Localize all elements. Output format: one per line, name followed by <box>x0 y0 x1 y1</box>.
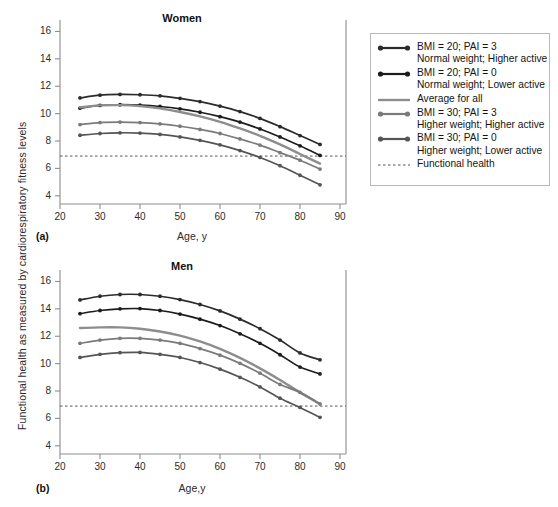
series-marker <box>238 317 242 321</box>
series-marker <box>258 156 262 160</box>
series-marker <box>218 309 222 313</box>
series-marker <box>218 324 222 328</box>
series-marker <box>78 341 82 345</box>
y-tick-label: 16 <box>35 275 51 286</box>
legend-swatch-icon <box>377 41 411 54</box>
series-marker <box>118 93 122 97</box>
series-marker <box>218 367 222 371</box>
panel-men-letter: (b) <box>36 482 49 494</box>
legend-sublabel: Normal weight; Lower active <box>417 79 545 91</box>
y-tick-label: 10 <box>35 358 51 369</box>
x-tick-label: 40 <box>128 461 152 472</box>
series-marker <box>178 107 182 111</box>
series-marker <box>238 149 242 153</box>
series-marker <box>158 94 162 98</box>
legend-sublabel: Higher weight; Higher active <box>417 119 544 131</box>
legend-swatch-icon <box>377 158 411 171</box>
series-marker <box>218 104 222 108</box>
panel-women-title: Women <box>32 12 332 24</box>
legend-swatch-icon <box>377 132 411 145</box>
series-marker <box>298 406 302 410</box>
series-marker <box>98 294 102 298</box>
y-tick-label: 8 <box>35 135 51 146</box>
panel-men: Men (b) Age,y 46810121416203040506070809… <box>22 258 362 503</box>
series-marker <box>178 298 182 302</box>
series-marker <box>98 352 102 356</box>
series-marker <box>218 143 222 147</box>
series-marker <box>78 133 82 137</box>
y-tick-label: 6 <box>35 412 51 423</box>
panel-men-xlabel: Age,y <box>122 482 262 494</box>
panel-women-xlabel: Age, y <box>122 230 262 242</box>
legend: BMI = 20; PAI = 3Normal weight; Higher a… <box>370 33 550 186</box>
series-marker <box>298 390 302 394</box>
legend-swatch-icon <box>377 107 411 120</box>
series-marker <box>198 303 202 307</box>
series-marker <box>178 341 182 345</box>
x-tick-label: 40 <box>128 211 152 222</box>
series-marker <box>198 138 202 142</box>
series-marker <box>158 294 162 298</box>
series-marker <box>318 358 322 362</box>
series-marker <box>318 183 322 187</box>
series-marker <box>258 385 262 389</box>
series-marker <box>98 309 102 313</box>
series-marker <box>98 121 102 125</box>
legend-swatch-icon <box>377 67 411 80</box>
legend-item: Functional health <box>377 158 543 171</box>
series-marker <box>178 135 182 139</box>
series-marker <box>318 415 322 419</box>
series-marker <box>318 167 322 171</box>
legend-label: BMI = 30; PAI = 3 <box>417 107 544 119</box>
series-marker <box>258 341 262 345</box>
x-tick-label: 30 <box>88 461 112 472</box>
series-marker <box>218 132 222 136</box>
series-marker <box>118 293 122 297</box>
series-marker <box>178 356 182 360</box>
series-marker <box>198 317 202 321</box>
series-marker <box>238 137 242 141</box>
series-marker <box>238 361 242 365</box>
series-marker <box>118 131 122 135</box>
series-marker <box>138 121 142 125</box>
series-marker <box>178 312 182 316</box>
series-marker <box>118 307 122 311</box>
y-tick-label: 8 <box>35 385 51 396</box>
y-tick-label: 14 <box>35 303 51 314</box>
series-marker <box>278 125 282 129</box>
series-marker <box>158 122 162 126</box>
series-marker <box>298 173 302 177</box>
series-marker <box>198 127 202 131</box>
x-tick-label: 80 <box>288 211 312 222</box>
y-tick-label: 10 <box>35 108 51 119</box>
series-marker <box>198 110 202 114</box>
series-marker <box>138 351 142 355</box>
y-tick-label: 12 <box>35 80 51 91</box>
legend-item: BMI = 20; PAI = 0Normal weight; Lower ac… <box>377 67 543 92</box>
series-marker <box>178 124 182 128</box>
x-tick-label: 30 <box>88 211 112 222</box>
series-marker <box>178 96 182 100</box>
series-marker <box>218 353 222 357</box>
series-marker <box>278 396 282 400</box>
series-marker <box>258 127 262 131</box>
x-tick-label: 60 <box>208 211 232 222</box>
series-marker <box>318 372 322 376</box>
x-tick-label: 90 <box>328 461 352 472</box>
series-marker <box>238 110 242 114</box>
series-marker <box>118 120 122 124</box>
series-marker <box>278 135 282 139</box>
series-marker <box>138 293 142 297</box>
series-marker <box>278 383 282 387</box>
x-tick-label: 20 <box>48 211 72 222</box>
panel-women-letter: (a) <box>36 230 49 242</box>
series-marker <box>158 309 162 313</box>
y-axis-label-container: Functional health as measured by cardior… <box>0 0 22 507</box>
series-marker <box>278 338 282 342</box>
series-marker <box>258 327 262 331</box>
series-marker <box>278 164 282 168</box>
x-tick-label: 90 <box>328 211 352 222</box>
series-marker <box>78 96 82 100</box>
series-marker <box>158 133 162 137</box>
y-tick-label: 16 <box>35 25 51 36</box>
